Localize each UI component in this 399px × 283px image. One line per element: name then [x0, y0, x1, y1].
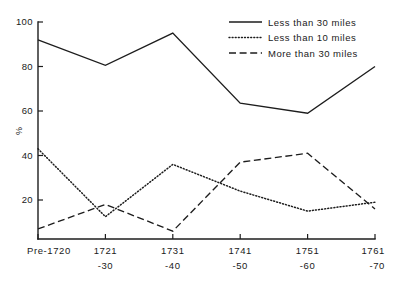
y-axis-tick-label: 80 — [22, 61, 33, 72]
x-axis-tick-label: 1751 — [296, 245, 320, 256]
chart-figure: 10080604020 % Pre-17201721-301731-401741… — [0, 0, 399, 283]
legend-label-2: Less than 10 miles — [268, 32, 356, 43]
line-chart: 10080604020 % Pre-17201721-301731-401741… — [0, 0, 399, 283]
y-axis-tick-label: 20 — [22, 194, 33, 205]
y-axis-tick-label: 100 — [16, 16, 33, 27]
x-axis-tick-label: Pre-1720 — [27, 245, 71, 256]
x-axis-tick-sublabel: -70 — [369, 260, 385, 271]
x-axis-tick-label: 1721 — [94, 245, 118, 256]
x-axis-tick-sublabel: -60 — [300, 260, 316, 271]
x-axis-tick-sublabel: -30 — [98, 260, 114, 271]
x-axis-tick-sublabel: -50 — [232, 260, 248, 271]
x-axis-tick-label: 1741 — [228, 245, 252, 256]
x-axis-tick-label: 1761 — [361, 245, 385, 256]
y-axis-tick-label: 40 — [22, 150, 33, 161]
x-axis-tick-sublabel: -40 — [165, 260, 181, 271]
legend-label-1: Less than 30 miles — [268, 17, 356, 28]
y-axis-title: % — [14, 127, 24, 135]
y-axis-tick-label: 60 — [22, 105, 33, 116]
x-axis-tick-label: 1731 — [161, 245, 185, 256]
legend-label-3: More than 30 miles — [268, 48, 358, 59]
